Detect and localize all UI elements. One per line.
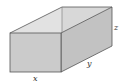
box-diagram: x y z <box>0 0 120 84</box>
label-z: z <box>113 23 119 32</box>
label-y: y <box>86 59 92 68</box>
label-x: x <box>33 74 38 83</box>
front-face <box>10 33 61 72</box>
